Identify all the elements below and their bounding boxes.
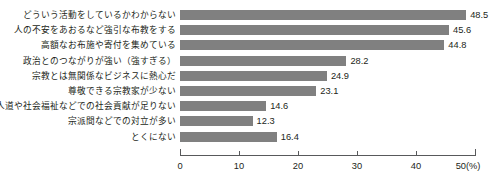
x-axis-tick-label: 0 (177, 159, 182, 173)
x-axis-line (180, 155, 475, 156)
x-axis-tick (357, 151, 358, 156)
bar (180, 86, 316, 96)
chart-row: 政治とのつながりが強い（強すぎる）28.2 (0, 54, 503, 69)
chart-row: 人の不安をあおるなど強引な布教をする45.6 (0, 23, 503, 38)
bar (180, 71, 327, 81)
category-label: 政治とのつながりが強い（強すぎる） (23, 54, 176, 69)
x-axis-tick (475, 149, 476, 156)
chart-row: 宗派間などでの対立が多い12.3 (0, 114, 503, 129)
category-label: どういう活動をしているかわからない (23, 8, 176, 23)
x-axis-tick-label: 40 (411, 159, 421, 173)
chart-row: 人道や社会福祉などでの社会貢献が足りない14.6 (0, 99, 503, 114)
category-label: 人の不安をあおるなど強引な布教をする (14, 23, 176, 38)
chart-row: 宗教とは無関係なビジネスに熱心だ24.9 (0, 69, 503, 84)
bar (180, 10, 466, 20)
category-label: とくにない (131, 130, 176, 145)
category-label: 人道や社会福祉などでの社会貢献が足りない (0, 99, 176, 114)
x-axis-tick (298, 151, 299, 156)
bar (180, 101, 266, 111)
bar (180, 132, 277, 142)
bar-value-label: 16.4 (281, 130, 299, 145)
chart-row: とくにない16.4 (0, 130, 503, 145)
category-label: 宗教とは無関係なビジネスに熱心だ (32, 69, 176, 84)
bar-value-label: 24.9 (331, 69, 349, 84)
bar-value-label: 14.6 (270, 99, 288, 114)
x-axis-tick (239, 151, 240, 156)
chart-row: 尊敬できる宗教家が少ない23.1 (0, 84, 503, 99)
x-axis-tick-label: 20 (293, 159, 303, 173)
category-label: 高額なお布施や寄付を集めている (41, 38, 176, 53)
bar (180, 116, 253, 126)
x-axis-tick-label: 50(%) (456, 159, 481, 173)
chart-row: 高額なお布施や寄付を集めている44.8 (0, 38, 503, 53)
bar-value-label: 48.5 (470, 8, 488, 23)
bar (180, 56, 346, 66)
chart-row: どういう活動をしているかわからない48.5 (0, 8, 503, 23)
bar-value-label: 12.3 (257, 114, 275, 129)
category-label: 尊敬できる宗教家が少ない (68, 84, 176, 99)
bar (180, 25, 449, 35)
bar-value-label: 44.8 (448, 38, 466, 53)
bar-value-label: 23.1 (320, 84, 338, 99)
bar-value-label: 28.2 (350, 54, 368, 69)
category-label: 宗派間などでの対立が多い (68, 114, 176, 129)
x-axis-tick-label: 10 (234, 159, 244, 173)
x-axis-tick (416, 151, 417, 156)
bar (180, 40, 444, 50)
bar-value-label: 45.6 (453, 23, 471, 38)
x-axis-tick (180, 149, 181, 156)
x-axis-tick-label: 30 (352, 159, 362, 173)
horizontal-bar-chart: どういう活動をしているかわからない48.5人の不安をあおるなど強引な布教をする4… (0, 0, 503, 183)
